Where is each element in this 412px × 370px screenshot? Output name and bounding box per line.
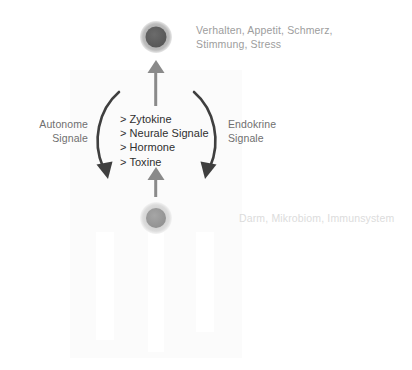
diagram-canvas <box>0 0 412 370</box>
node-gut <box>140 202 172 234</box>
endokrine-signale-label: Endokrine Signale <box>228 117 276 145</box>
brain-outcomes-label: Verhalten, Appetit, Schmerz, Stimmung, S… <box>196 24 333 51</box>
gut-systems-label: Darm, Mikrobiom, Immunsystem <box>239 212 394 226</box>
autonome-signale-label: Autonome Signale <box>8 117 88 145</box>
node-brain <box>140 21 172 53</box>
mediators-list: > Zytokine > Neurale Signale > Hormone >… <box>120 112 209 169</box>
